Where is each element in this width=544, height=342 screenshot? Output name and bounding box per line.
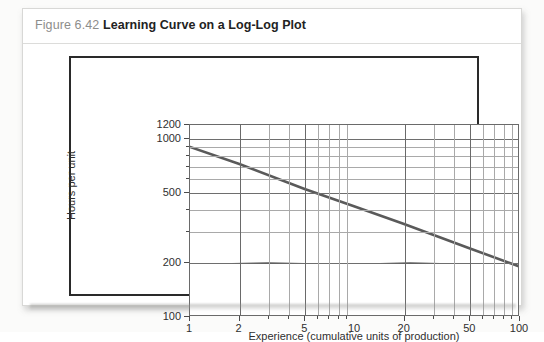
gridline-vertical bbox=[318, 125, 319, 315]
y-axis-title: Hours per unit bbox=[65, 151, 77, 220]
x-axis-tick-label: 5 bbox=[301, 322, 307, 334]
gridline-vertical bbox=[512, 125, 513, 315]
figure-number: Figure 6.42 bbox=[35, 18, 99, 32]
gridline-vertical bbox=[339, 125, 340, 315]
gridline-vertical bbox=[434, 125, 435, 315]
x-axis-tick bbox=[404, 316, 405, 321]
x-axis-tick bbox=[511, 316, 512, 319]
x-axis-tick-label: 10 bbox=[348, 322, 360, 334]
x-axis-tick bbox=[239, 316, 240, 321]
y-axis-tick bbox=[184, 138, 189, 139]
x-axis-tick-label: 20 bbox=[398, 322, 410, 334]
x-axis-tick bbox=[338, 316, 339, 319]
x-axis-tick-label: 100 bbox=[510, 322, 528, 334]
x-axis-tick bbox=[189, 316, 190, 321]
y-axis-tick bbox=[186, 155, 189, 156]
x-axis-tick bbox=[493, 316, 494, 319]
figure-card: Figure 6.42 Learning Curve on a Log-Log … bbox=[22, 8, 522, 306]
figure-title-bar: Figure 6.42 Learning Curve on a Log-Log … bbox=[23, 9, 521, 44]
gridline-vertical bbox=[405, 125, 406, 315]
y-axis-tick bbox=[186, 166, 189, 167]
y-axis-tick bbox=[186, 146, 189, 147]
gridline-vertical bbox=[470, 125, 471, 315]
x-axis-tick-label: 50 bbox=[463, 322, 475, 334]
y-axis-tick bbox=[186, 231, 189, 232]
y-axis-tick bbox=[184, 262, 189, 263]
gridline-vertical bbox=[347, 125, 348, 315]
gridline-vertical bbox=[269, 125, 270, 315]
x-axis-tick bbox=[482, 316, 483, 319]
y-axis-tick bbox=[186, 209, 189, 210]
gridline-vertical bbox=[305, 125, 306, 315]
x-axis-tick bbox=[453, 316, 454, 319]
x-axis-tick-label: 2 bbox=[236, 322, 242, 334]
y-axis-tick-label: 200 bbox=[131, 256, 181, 268]
page-shadow bbox=[30, 304, 516, 311]
gridline-vertical bbox=[504, 125, 505, 315]
scan-artifact bbox=[380, 262, 440, 264]
scan-artifact bbox=[232, 262, 304, 264]
y-axis-tick bbox=[184, 316, 189, 317]
plot-area bbox=[189, 124, 519, 316]
y-axis-tick-label: 1000 bbox=[131, 132, 181, 144]
figure-title: Learning Curve on a Log-Log Plot bbox=[103, 18, 306, 32]
y-axis-tick-label: 100 bbox=[131, 310, 181, 322]
x-axis-tick bbox=[317, 316, 318, 319]
x-axis-tick bbox=[469, 316, 470, 321]
y-axis-tick bbox=[186, 178, 189, 179]
x-axis-tick bbox=[519, 316, 520, 321]
y-axis-tick bbox=[184, 124, 189, 125]
gridline-vertical bbox=[329, 125, 330, 315]
gridline-vertical bbox=[240, 125, 241, 315]
y-axis-tick-label: 1200 bbox=[131, 118, 181, 130]
x-axis-tick-label: 1 bbox=[186, 322, 192, 334]
gridline-vertical bbox=[289, 125, 290, 315]
x-axis-tick bbox=[503, 316, 504, 319]
x-axis-tick bbox=[288, 316, 289, 319]
gridline-vertical bbox=[454, 125, 455, 315]
y-axis-tick bbox=[184, 192, 189, 193]
gridline-vertical bbox=[483, 125, 484, 315]
chart-frame: Hours per unit Experience (cumulative un… bbox=[69, 56, 479, 296]
x-axis-tick bbox=[268, 316, 269, 319]
y-axis-tick-label: 500 bbox=[131, 186, 181, 198]
x-axis-tick bbox=[433, 316, 434, 319]
x-axis-tick bbox=[328, 316, 329, 319]
gridline-vertical bbox=[494, 125, 495, 315]
x-axis-tick bbox=[346, 316, 347, 319]
x-axis-tick bbox=[304, 316, 305, 321]
